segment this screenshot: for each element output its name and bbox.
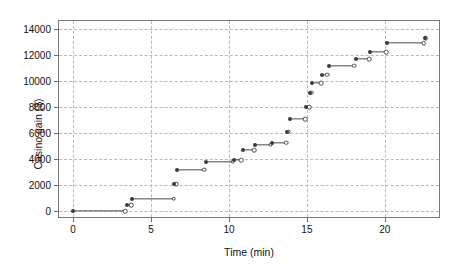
data-point-filled [175,168,179,172]
data-point-filled [71,209,75,213]
data-point-open [284,140,289,145]
data-point-open [384,50,389,55]
step-segment-line [73,211,125,212]
x-axis-tick-label: 15 [301,224,312,235]
step-segment-line [132,198,173,199]
data-point-open [303,117,308,122]
plot-frame: 0200040006000800010000120001400005101520 [58,20,440,218]
y-axis-tick-label: 12000 [23,49,51,60]
gridline-horizontal [59,107,439,108]
gridline-horizontal [59,133,439,134]
data-point-filled [308,91,312,95]
data-point-filled [130,197,134,201]
data-point-open [367,57,372,62]
data-point-filled [232,158,236,162]
data-point-filled [327,64,331,68]
step-segment-line [387,42,423,43]
step-segment-line [177,169,204,170]
data-point-filled [385,41,389,45]
x-axis-tick [229,217,230,222]
step-segment-line [206,161,233,162]
data-point-filled [125,203,129,207]
y-axis-tick-label: 14000 [23,23,51,34]
y-axis-tick [54,185,59,186]
y-axis-tick [54,211,59,212]
data-point-filled [304,105,308,109]
data-point-filled [241,148,245,152]
data-point-filled [288,117,292,121]
data-point-open [171,196,176,201]
y-axis-tick-label: 10000 [23,75,51,86]
data-point-filled [270,141,274,145]
data-point-filled [354,57,358,61]
plot-area: 0200040006000800010000120001400005101520 [59,21,439,217]
data-point-open [325,72,330,77]
y-axis-tick [54,81,59,82]
x-axis-tick-label: 10 [223,224,234,235]
x-axis-tick [307,217,308,222]
x-axis-title: Time (min) [58,246,440,258]
y-axis-tick-label: 6000 [29,128,51,139]
step-segment-line [329,65,355,66]
gridline-vertical [151,21,152,217]
x-axis-tick-label: 0 [70,224,76,235]
y-axis-tick-label: 4000 [29,154,51,165]
data-point-open [352,63,357,68]
data-point-open [202,167,207,172]
gridline-vertical [229,21,230,217]
data-point-open [129,203,134,208]
data-point-open [252,148,257,153]
x-axis-tick-label: 20 [379,224,390,235]
data-point-filled [253,143,257,147]
data-point-filled [310,81,314,85]
y-axis-tick-label: 8000 [29,101,51,112]
x-axis-tick [385,217,386,222]
data-point-filled [285,130,289,134]
y-axis-tick [54,55,59,56]
gridline-vertical [73,21,74,217]
data-point-filled [320,73,324,77]
y-axis-tick [54,29,59,30]
data-point-filled [368,50,372,54]
data-point-filled [423,36,427,40]
data-point-open [123,209,128,214]
y-axis-tick [54,133,59,134]
y-axis-tick-label: 2000 [29,180,51,191]
gridline-horizontal [59,159,439,160]
gridline-horizontal [59,185,439,186]
data-point-filled [204,160,208,164]
y-axis-tick [54,159,59,160]
chart-figure: Casino gain ($) Time (min) 0200040006000… [0,0,453,267]
gridline-horizontal [59,55,439,56]
gridline-horizontal [59,29,439,30]
x-axis-tick [73,217,74,222]
gridline-horizontal [59,81,439,82]
y-axis-tick-label: 0 [45,206,51,217]
x-axis-tick-label: 5 [148,224,154,235]
data-point-open [239,158,244,163]
data-point-filled [172,182,176,186]
data-point-open [319,81,324,86]
x-axis-tick [151,217,152,222]
y-axis-tick [54,107,59,108]
data-point-open [421,41,426,46]
